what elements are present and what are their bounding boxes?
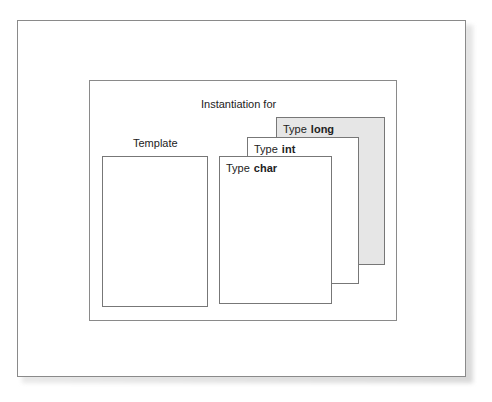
template-box [102, 156, 208, 307]
template-label: Template [133, 137, 178, 149]
instance-label-char: Typechar [226, 162, 277, 174]
instance-box-char: Typechar [219, 156, 332, 304]
instance-label-long: Typelong [283, 123, 334, 135]
instance-label-int: Typeint [254, 143, 295, 155]
instantiation-title: Instantiation for [201, 98, 276, 110]
